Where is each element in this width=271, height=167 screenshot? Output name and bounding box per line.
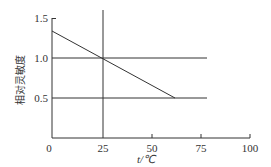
x-tick-label-25: 25 bbox=[98, 142, 110, 154]
y-axis-label: 相对灵敏度 bbox=[14, 55, 26, 105]
y-tick-label-1.0: 1.0 bbox=[34, 52, 48, 64]
y-tick-label-1.5: 1.5 bbox=[34, 12, 48, 24]
x-axis-label: t/℃ bbox=[137, 153, 157, 165]
y-tick-label-0.5: 0.5 bbox=[34, 92, 48, 104]
sensitivity-line bbox=[52, 31, 175, 98]
chart: 1.5 1.0 0.5 0 25 50 75 100 t/℃ 相对灵敏度 bbox=[0, 0, 271, 167]
x-tick-label-0: 0 bbox=[46, 142, 52, 154]
x-tick-label-100: 100 bbox=[242, 142, 259, 154]
x-tick-label-75: 75 bbox=[196, 142, 208, 154]
